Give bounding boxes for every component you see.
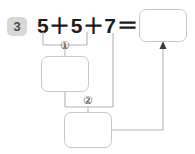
step-1-answer-box[interactable] xyxy=(41,56,89,92)
step-2-answer-box[interactable] xyxy=(64,112,112,148)
problem-number-badge: 3 xyxy=(7,17,27,36)
equation-expression: 5＋5＋7＝ xyxy=(37,14,138,38)
step-1-marker: ① xyxy=(58,39,72,52)
result-answer-box[interactable] xyxy=(139,9,187,42)
step-2-marker: ② xyxy=(81,94,95,107)
worksheet-problem: 3 5＋5＋7＝ ① ② xyxy=(0,0,195,154)
